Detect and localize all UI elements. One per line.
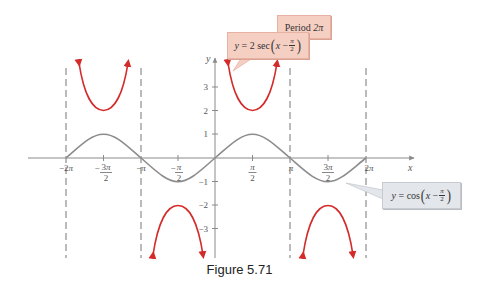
secant-branch-1	[79, 63, 128, 111]
svg-text:−3: −3	[198, 224, 208, 234]
svg-text:π: π	[177, 162, 182, 172]
svg-text:2π: 2π	[364, 163, 374, 173]
secant-minus: −	[283, 40, 289, 51]
cosine-frac-den: 2	[440, 196, 444, 203]
svg-text:π: π	[250, 162, 255, 172]
secant-eq: = 2 sec	[242, 40, 270, 51]
svg-text:−: −	[170, 163, 175, 173]
secant-curves	[79, 63, 353, 255]
figure-caption: Figure 5.71	[0, 262, 479, 277]
svg-text:−π: −π	[136, 163, 146, 173]
cosine-eq: = cos	[399, 190, 420, 201]
secant-lhs: y	[235, 40, 239, 51]
cosine-lhs: y	[392, 190, 396, 201]
svg-text:3π: 3π	[101, 162, 111, 172]
period-value: 2π	[313, 22, 323, 33]
x-axis-label: x	[407, 162, 413, 173]
secant-var: x	[276, 40, 280, 51]
cosine-callout-pointer	[346, 183, 383, 199]
svg-text:3π: 3π	[323, 162, 333, 172]
axes	[28, 58, 414, 258]
cosine-minus: −	[433, 190, 439, 201]
secant-equation-callout: y = 2 sec(x −π2)	[227, 32, 309, 59]
svg-text:−2: −2	[198, 200, 208, 210]
svg-text:−2π: −2π	[59, 163, 74, 173]
svg-text:π: π	[289, 163, 294, 173]
svg-text:1: 1	[204, 129, 209, 139]
svg-text:2: 2	[104, 173, 109, 183]
secant-callout-pointer	[233, 57, 254, 71]
svg-text:2: 2	[250, 173, 255, 183]
secant-frac-den: 2	[290, 46, 294, 53]
svg-text:−1: −1	[198, 177, 208, 187]
cosine-equation-callout: y = cos(x −π2)	[382, 182, 461, 209]
x-tick-labels: −2π − 3π 2 −π − π 2 π 2 π 3π 2 2π	[59, 162, 374, 183]
svg-text:2: 2	[204, 106, 209, 116]
cosine-var: x	[426, 190, 430, 201]
svg-text:3: 3	[204, 82, 209, 92]
period-label: Period	[285, 22, 311, 33]
y-axis-label: y	[205, 53, 211, 64]
secant-branch-3	[228, 63, 277, 111]
secant-branch-4	[303, 206, 353, 256]
asymptotes	[66, 68, 366, 258]
svg-text:−: −	[94, 163, 99, 173]
secant-branch-2	[153, 206, 203, 256]
